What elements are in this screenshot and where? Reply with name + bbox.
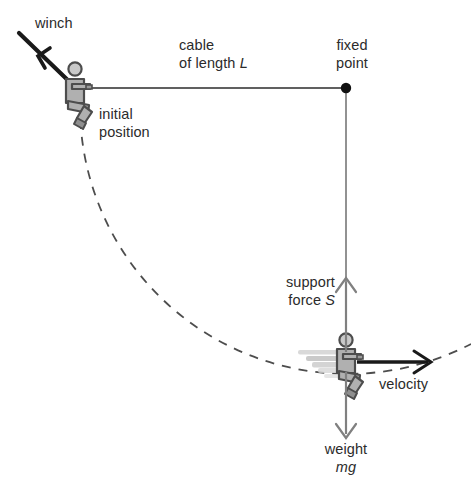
label-cable-line2: of length L [179, 54, 248, 72]
label-initial-position: initial position [99, 105, 150, 141]
label-velocity-text: velocity [379, 376, 428, 392]
label-cable-symbol-L: L [240, 55, 248, 71]
label-weight-symbol-mg: mg [300, 458, 392, 476]
label-fixed-point: fixed point [324, 36, 380, 72]
label-velocity: velocity [379, 375, 428, 393]
velocity-arrow [357, 351, 431, 373]
label-weight-line1: weight [300, 440, 392, 458]
label-cable-line1: cable [179, 36, 248, 54]
fixed-point-dot [341, 83, 351, 93]
label-winch: winch [35, 14, 73, 32]
person-figure-initial [66, 62, 92, 129]
label-support-line2: force S [225, 291, 335, 309]
label-support-force: support force S [225, 273, 335, 309]
label-support-symbol-S: S [325, 292, 335, 308]
label-cable-prefix: of length [179, 55, 240, 71]
label-fixed-line1: fixed [324, 36, 380, 54]
label-fixed-line2: point [324, 54, 380, 72]
label-weight: weight mg [300, 440, 392, 476]
label-initial-line1: initial [99, 105, 150, 123]
swing-path-arc [80, 103, 471, 374]
label-winch-text: winch [35, 15, 73, 31]
label-cable-length: cable of length L [179, 36, 248, 72]
label-initial-line2: position [99, 123, 150, 141]
label-support-line1: support [225, 273, 335, 291]
person-figure-bottom [337, 333, 363, 399]
label-support-prefix: force [288, 292, 325, 308]
physics-diagram: winch cable of length L fixed point init… [0, 0, 471, 502]
diagram-canvas [0, 0, 471, 502]
